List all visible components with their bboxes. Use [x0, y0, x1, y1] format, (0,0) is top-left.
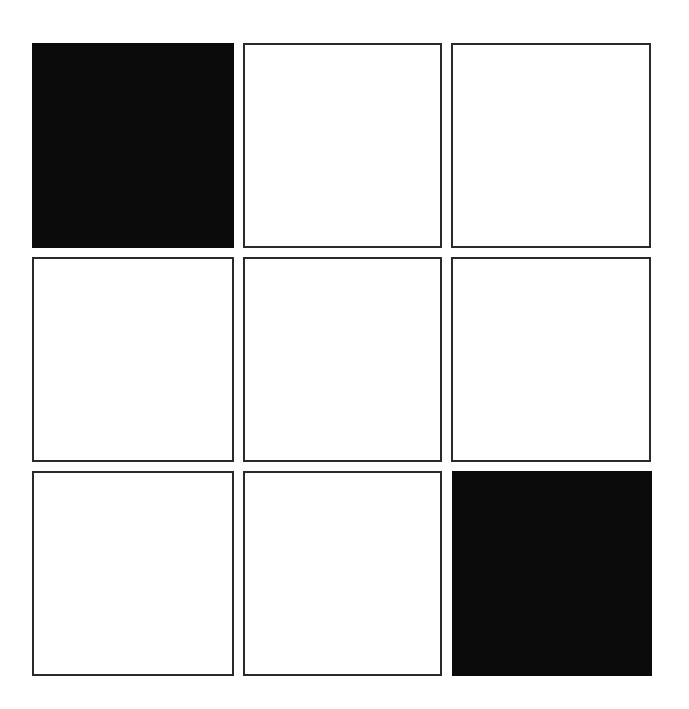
grid-cell-r2-c3 — [451, 257, 651, 462]
grid-cell-r1-c3 — [451, 43, 651, 248]
grid-cell-r3-c2 — [243, 471, 442, 676]
grid-cell-r2-c2 — [243, 257, 442, 462]
grid-cell-r3-c1 — [32, 471, 234, 676]
grid-cell-r1-c2 — [243, 43, 442, 248]
three-by-three-grid — [32, 43, 652, 676]
grid-cell-r2-c1 — [32, 257, 234, 462]
grid-cell-r3-c3 — [452, 471, 652, 676]
grid-cell-r1-c1 — [32, 43, 234, 248]
